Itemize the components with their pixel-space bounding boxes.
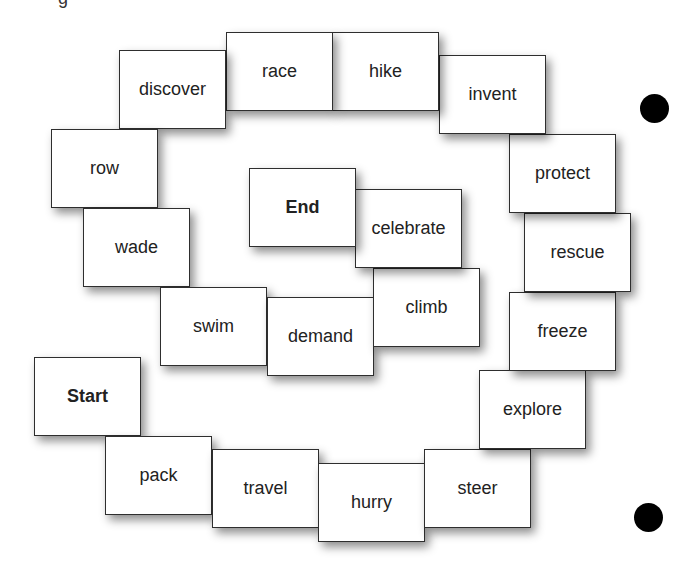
card-demand[interactable]: demand (267, 297, 374, 376)
card-row[interactable]: row (51, 129, 158, 208)
card-wade[interactable]: wade (83, 208, 190, 287)
card-discover[interactable]: discover (119, 50, 226, 129)
bullet-dot-icon (634, 503, 663, 532)
card-invent[interactable]: invent (439, 55, 546, 134)
card-race[interactable]: race (226, 32, 333, 111)
card-swim[interactable]: swim (160, 287, 267, 366)
word-spiral-board: g Startpacktravelhurrysteerexplorefreeze… (0, 0, 682, 570)
card-rescue[interactable]: rescue (524, 213, 631, 292)
card-hike[interactable]: hike (332, 32, 439, 111)
card-travel[interactable]: travel (212, 449, 319, 528)
card-explore[interactable]: explore (479, 370, 586, 449)
title-fragment: g (58, 0, 68, 9)
card-climb[interactable]: climb (373, 268, 480, 347)
card-celebrate[interactable]: celebrate (355, 189, 462, 268)
card-end[interactable]: End (249, 168, 356, 247)
card-freeze[interactable]: freeze (509, 292, 616, 371)
card-protect[interactable]: protect (509, 134, 616, 213)
card-steer[interactable]: steer (424, 449, 531, 528)
card-start[interactable]: Start (34, 357, 141, 436)
card-hurry[interactable]: hurry (318, 463, 425, 542)
bullet-dot-icon (640, 94, 669, 123)
card-pack[interactable]: pack (105, 436, 212, 515)
